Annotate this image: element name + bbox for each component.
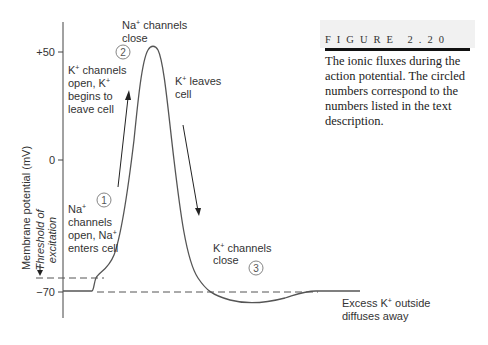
annotation-na-channels-close: Na+ channels close (122, 19, 188, 44)
tick-label-m70: −70 (36, 286, 55, 298)
circled-number-2: 2 (116, 45, 130, 59)
tick-label-0: 0 (49, 154, 55, 166)
svg-text:cell: cell (175, 88, 192, 100)
svg-text:K+ leaves: K+ leaves (175, 75, 222, 87)
svg-text:close: close (122, 32, 148, 44)
svg-text:open, Na+: open, Na+ (68, 229, 117, 241)
threshold-label-line2: excitation (46, 217, 58, 263)
svg-text:channels: channels (68, 216, 113, 228)
figure-label-band: FIGURE 2.20 (320, 20, 475, 48)
rising-arrow-icon (118, 90, 131, 187)
svg-text:K+ channels: K+ channels (213, 242, 272, 254)
figure-rule (325, 48, 470, 51)
svg-text:close: close (213, 254, 239, 266)
svg-text:K+ channels: K+ channels (68, 64, 127, 76)
figure-caption-block: FIGURE 2.20 The ionic fluxes during the … (325, 20, 475, 129)
svg-text:begins to: begins to (68, 90, 113, 102)
tick-label-p50: +50 (36, 46, 55, 58)
svg-text:3: 3 (253, 263, 259, 274)
circled-number-3: 3 (249, 261, 263, 275)
annotation-excess-k-diffuses: Excess K+ outside diffuses away (342, 297, 430, 322)
annotation-k-channels-close: K+ channels close (213, 242, 272, 266)
threshold-label-line1: Threshold of (34, 208, 46, 270)
svg-text:2: 2 (120, 47, 126, 58)
svg-text:Na+ channels: Na+ channels (122, 19, 188, 31)
y-axis-label: Membrane potential (mV) (20, 146, 32, 270)
annotation-k-channels-open: K+ channels open, K+ begins to leave cel… (68, 64, 127, 115)
svg-text:diffuses away: diffuses away (342, 310, 409, 322)
svg-text:1: 1 (101, 195, 107, 206)
svg-text:enters cell: enters cell (68, 242, 118, 254)
circled-number-1: 1 (97, 193, 111, 207)
svg-text:leave cell: leave cell (68, 103, 114, 115)
action-potential-figure: +50 0 −70 Membrane potential (mV) Thresh… (0, 0, 488, 345)
svg-text:Na+: Na+ (68, 203, 86, 215)
annotation-k-leaves-cell: K+ leaves cell (175, 75, 222, 100)
svg-text:open, K+: open, K+ (68, 77, 110, 89)
falling-arrow-icon (183, 125, 201, 216)
figure-caption: The ionic fluxes during the action poten… (325, 54, 475, 129)
svg-text:Excess K+ outside: Excess K+ outside (342, 297, 430, 309)
figure-label: FIGURE 2.20 (325, 33, 475, 46)
annotation-na-channels-open: Na+ channels open, Na+ enters cell (68, 203, 118, 254)
